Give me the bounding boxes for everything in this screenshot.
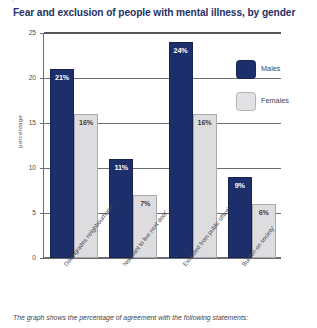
legend-label: Females (261, 96, 289, 105)
chart-title: Fear and exclusion of people with mental… (13, 7, 313, 18)
bar-value-label: 11% (110, 163, 132, 172)
y-tick-label-15: 15 (8, 119, 36, 126)
legend-swatch-males (236, 60, 256, 79)
bar-value-label: 21% (51, 73, 73, 82)
y-tick-label-25: 25 (8, 29, 36, 36)
y-tick-mark-0 (40, 258, 44, 259)
y-tick-label-5: 5 (8, 209, 36, 216)
chart-figure: Fear and exclusion of people with mental… (0, 0, 317, 328)
bar-males-3: 9% (228, 177, 252, 258)
y-tick-label-0: 0 (8, 254, 36, 261)
bar-value-label: 16% (75, 118, 97, 127)
bar-value-label: 9% (229, 181, 251, 190)
bar-value-label: 7% (134, 199, 156, 208)
bar-value-label: 6% (253, 208, 275, 217)
y-tick-label-10: 10 (8, 164, 36, 171)
y-tick-label-20: 20 (8, 74, 36, 81)
bar-males-0: 21% (50, 69, 74, 258)
legend-swatch-females (236, 92, 256, 111)
bar-value-label: 16% (194, 118, 216, 127)
bar-males-2: 24% (169, 42, 193, 258)
y-axis-label: percentage (16, 102, 23, 162)
legend-label: Males (261, 64, 280, 73)
chart-footnote: The graph shows the percentage of agreem… (13, 314, 313, 321)
bar-value-label: 24% (170, 46, 192, 55)
